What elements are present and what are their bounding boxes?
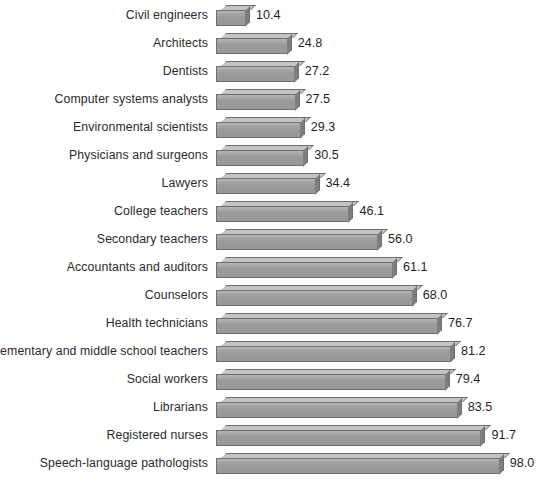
bar-side-face	[450, 342, 455, 363]
bar-3d-body	[216, 397, 458, 418]
bar	[216, 453, 500, 474]
bar-row: Civil engineers10.4	[0, 1, 541, 29]
bar-row: Architects24.8	[0, 29, 541, 57]
bar-3d-body	[216, 89, 296, 110]
bar-front-face	[216, 150, 304, 166]
bar-value-label: 56.0	[388, 225, 413, 253]
bar	[216, 89, 296, 110]
bar-side-face	[245, 6, 250, 27]
bar-3d-body	[216, 229, 378, 250]
bar-3d-body	[216, 453, 500, 474]
horizontal-bar-chart: Civil engineers10.4Architects24.8Dentist…	[0, 0, 541, 487]
bar-row: Environmental scientists29.3	[0, 113, 541, 141]
bar-row: Accountants and auditors61.1	[0, 253, 541, 281]
bar-front-face	[216, 10, 246, 26]
bar-side-face	[445, 370, 450, 391]
bar-value-label: 61.1	[403, 253, 428, 281]
bar	[216, 285, 413, 306]
bar-3d-body	[216, 173, 316, 194]
bar-front-face	[216, 374, 446, 390]
bar-front-face	[216, 402, 458, 418]
chart-plot-area: Civil engineers10.4Architects24.8Dentist…	[0, 0, 541, 487]
category-label: Computer systems analysts	[0, 85, 212, 113]
category-label: Counselors	[0, 281, 212, 309]
bar-front-face	[216, 458, 500, 474]
bar-value-label: 83.5	[468, 393, 493, 421]
bar-3d-body	[216, 5, 246, 26]
bar-front-face	[216, 178, 316, 194]
bar-side-face	[480, 426, 485, 447]
bar	[216, 117, 301, 138]
bar-front-face	[216, 38, 288, 54]
bar-value-label: 79.4	[456, 365, 481, 393]
bar-3d-body	[216, 61, 295, 82]
bar-3d-body	[216, 369, 446, 390]
bar-front-face	[216, 234, 378, 250]
bar	[216, 397, 458, 418]
bar-front-face	[216, 290, 413, 306]
category-label: Librarians	[0, 393, 212, 421]
bar-value-label: 98.0	[510, 449, 535, 477]
bar-value-label: 29.3	[311, 113, 336, 141]
bar-side-face	[457, 398, 462, 419]
category-label: College teachers	[0, 197, 212, 225]
bar	[216, 201, 349, 222]
bar-3d-body	[216, 313, 438, 334]
bar-front-face	[216, 122, 301, 138]
category-label: Civil engineers	[0, 1, 212, 29]
bar-value-label: 24.8	[298, 29, 323, 57]
bar-front-face	[216, 66, 295, 82]
bar-row: Dentists27.2	[0, 57, 541, 85]
bar	[216, 369, 446, 390]
bar	[216, 313, 438, 334]
bar-front-face	[216, 94, 296, 110]
bar-row: Librarians83.5	[0, 393, 541, 421]
category-label: Health technicians	[0, 309, 212, 337]
bar	[216, 5, 246, 26]
bar-side-face	[412, 286, 417, 307]
bar-side-face	[315, 174, 320, 195]
bar-value-label: 27.2	[305, 57, 330, 85]
category-label: Architects	[0, 29, 212, 57]
bar-side-face	[437, 314, 442, 335]
bar-3d-body	[216, 425, 481, 446]
bar-value-label: 68.0	[423, 281, 448, 309]
bar-row: Physicians and surgeons30.5	[0, 141, 541, 169]
bar-row: Health technicians76.7	[0, 309, 541, 337]
bar-3d-body	[216, 117, 301, 138]
bar-side-face	[300, 118, 305, 139]
bar-row: Elementary and middle school teachers81.…	[0, 337, 541, 365]
category-label: Social workers	[0, 365, 212, 393]
bar	[216, 229, 378, 250]
bar-side-face	[294, 62, 299, 83]
bar	[216, 61, 295, 82]
bar-row: Lawyers34.4	[0, 169, 541, 197]
bar-row: Computer systems analysts27.5	[0, 85, 541, 113]
bar-front-face	[216, 430, 481, 446]
bar-3d-body	[216, 201, 349, 222]
bar	[216, 33, 288, 54]
bar-value-label: 34.4	[326, 169, 351, 197]
bar-front-face	[216, 206, 349, 222]
bar-3d-body	[216, 257, 393, 278]
category-label: Environmental scientists	[0, 113, 212, 141]
bar-side-face	[377, 230, 382, 251]
bar-value-label: 81.2	[461, 337, 486, 365]
bar-3d-body	[216, 33, 288, 54]
bar-3d-body	[216, 341, 451, 362]
bar-side-face	[348, 202, 353, 223]
bar-row: Social workers79.4	[0, 365, 541, 393]
bar-front-face	[216, 262, 393, 278]
bar	[216, 257, 393, 278]
bar-side-face	[295, 90, 300, 111]
category-label: Physicians and surgeons	[0, 141, 212, 169]
bar-front-face	[216, 346, 451, 362]
bar-side-face	[392, 258, 397, 279]
bar-value-label: 91.7	[491, 421, 516, 449]
bar-front-face	[216, 318, 438, 334]
bar	[216, 173, 316, 194]
bar	[216, 425, 481, 446]
category-label: Secondary teachers	[0, 225, 212, 253]
bar-row: College teachers46.1	[0, 197, 541, 225]
category-label: Accountants and auditors	[0, 253, 212, 281]
